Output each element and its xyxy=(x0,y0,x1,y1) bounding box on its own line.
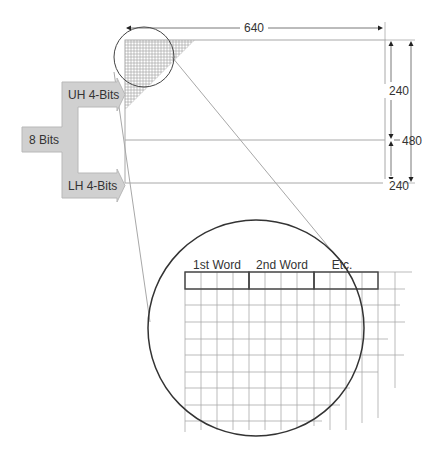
magnifier-connector-lines xyxy=(114,57,336,322)
word-label-1: 1st Word xyxy=(193,258,241,272)
word-box-2 xyxy=(249,272,314,289)
large-magnifier-circle xyxy=(148,220,364,436)
input-bits-label: 8 Bits xyxy=(29,133,59,147)
width-label: 640 xyxy=(244,21,264,35)
bottom-half-height-label: 240 xyxy=(389,179,409,193)
magnified-pixel-grid xyxy=(185,272,412,432)
lower-nibble-label: LH 4-Bits xyxy=(68,179,117,193)
display-memory-diagram: 640 240 480 240 8 Bits UH 4-Bits LH 4-Bi… xyxy=(0,0,445,454)
upper-nibble-label: UH 4-Bits xyxy=(68,88,119,102)
small-pixel-grid xyxy=(125,40,200,112)
full-height-label: 480 xyxy=(402,134,422,148)
word-label-3: Etc. xyxy=(332,258,353,272)
height-dimensions xyxy=(385,40,415,195)
top-half-height-label: 240 xyxy=(389,84,409,98)
word-label-2: 2nd Word xyxy=(256,258,308,272)
